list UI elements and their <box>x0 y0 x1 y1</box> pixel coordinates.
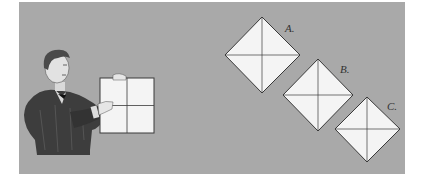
label-b: B. <box>340 63 349 75</box>
held-square <box>98 74 154 133</box>
illustration-canvas <box>0 0 425 178</box>
label-a: A. <box>285 22 294 34</box>
label-c: C. <box>387 100 397 112</box>
man-figure <box>24 50 112 155</box>
